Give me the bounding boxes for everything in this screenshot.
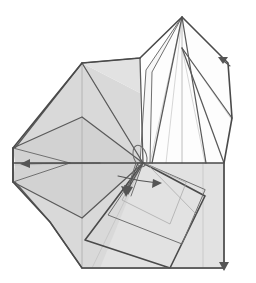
paper-faces [13, 17, 232, 268]
figure-root [0, 0, 256, 283]
origami-diagram [0, 0, 256, 283]
